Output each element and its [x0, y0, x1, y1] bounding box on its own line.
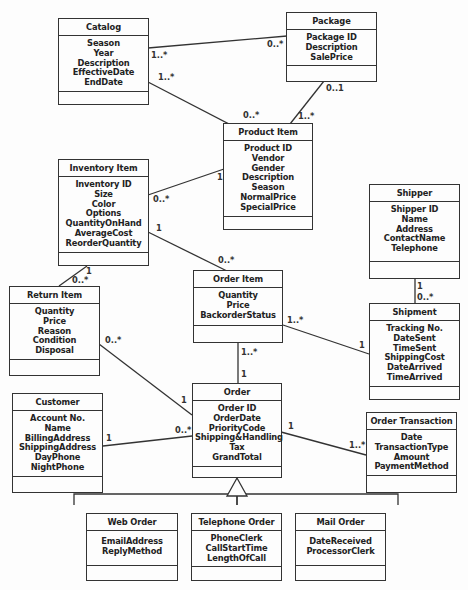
class-return-item: Return Item Quantity Price Reason Condit… — [9, 286, 100, 376]
class-name: Inventory Item — [59, 160, 148, 177]
class-attributes: PhoneClerk CallStartTime LengthOfCall — [192, 531, 281, 566]
attribute: Telephone — [372, 244, 457, 254]
multiplicity-label: 1..* — [298, 112, 314, 121]
multiplicity-label: 1..* — [158, 73, 174, 82]
class-order-transaction: Order Transaction Date TransactionType A… — [366, 412, 457, 493]
class-operations — [224, 216, 312, 233]
attribute: ReorderQuantity — [61, 239, 146, 249]
multiplicity-label: 1 — [359, 341, 365, 350]
class-name: Shipper — [370, 185, 459, 202]
attribute: ProcessorClerk — [298, 547, 383, 557]
class-attributes: Shipper ID Name Address ContactName Tele… — [370, 202, 459, 261]
attribute: PaymentMethod — [369, 462, 454, 472]
multiplicity-label: 0..* — [72, 276, 88, 285]
attribute: EndDate — [61, 78, 146, 88]
class-operations — [194, 325, 282, 342]
class-attributes: Season Year Description EffectiveDate En… — [59, 36, 148, 91]
multiplicity-label: 1..* — [151, 51, 167, 60]
attribute: TimeArrived — [372, 373, 457, 383]
attribute: SalePrice — [289, 53, 374, 63]
multiplicity-label: 1 — [241, 370, 247, 379]
class-attributes: Quantity Price BackorderStatus — [194, 288, 282, 325]
class-attributes: Order ID OrderDate PriorityCode Shipping… — [193, 401, 281, 466]
class-shipper: Shipper Shipper ID Name Address ContactN… — [369, 184, 460, 279]
attribute: ReplyMethod — [89, 547, 175, 557]
link-customer-order — [103, 436, 192, 446]
class-operations — [370, 386, 459, 403]
multiplicity-label: 0..* — [105, 336, 121, 345]
multiplicity-label: 1..* — [349, 441, 365, 450]
link-return-order — [99, 344, 192, 415]
class-name: Catalog — [59, 19, 148, 36]
class-shipment: Shipment Tracking No. DateSent TimeSent … — [369, 303, 460, 400]
class-attributes: DateReceived ProcessorClerk — [296, 531, 385, 565]
link-orderitem-shipment — [283, 325, 369, 354]
multiplicity-label: 1 — [106, 434, 112, 443]
attribute: SpecialPrice — [226, 203, 310, 213]
class-name: Product Item — [224, 124, 312, 141]
class-telephone-order: Telephone Order PhoneClerk CallStartTime… — [191, 513, 282, 581]
class-name: Order Item — [194, 271, 282, 288]
class-operations — [10, 359, 99, 376]
multiplicity-label: 0..1 — [326, 84, 344, 93]
class-operations — [13, 476, 102, 493]
class-operations — [287, 65, 376, 82]
class-name: Shipment — [370, 304, 459, 321]
multiplicity-label: 1 — [288, 422, 294, 431]
class-name: Customer — [13, 394, 102, 411]
class-name: Order — [193, 384, 281, 401]
attribute: NightPhone — [15, 463, 100, 473]
attribute: Disposal — [12, 346, 97, 356]
multiplicity-label: 0..* — [175, 426, 191, 435]
class-order-item: Order Item Quantity Price BackorderStatu… — [193, 270, 283, 343]
class-attributes: Quantity Price Reason Condition Disposal — [10, 304, 99, 359]
multiplicity-label: 1 — [417, 282, 423, 291]
class-operations — [296, 565, 385, 580]
class-name: Mail Order — [296, 514, 385, 531]
class-operations — [59, 91, 148, 108]
multiplicity-label: 1..* — [287, 316, 303, 325]
multiplicity-label: 0..* — [218, 256, 234, 265]
class-name: Web Order — [87, 514, 177, 531]
multiplicity-label: 1..* — [241, 348, 257, 357]
link-inventory-orderitem — [148, 232, 227, 271]
multiplicity-label: 0..* — [243, 111, 259, 120]
class-name: Return Item — [10, 287, 99, 304]
multiplicity-label: 1 — [217, 173, 223, 182]
class-name: Order Transaction — [367, 413, 456, 430]
class-product-item: Product Item Product ID Vendor Gender De… — [223, 123, 313, 230]
class-inventory-item: Inventory Item Inventory ID Size Color O… — [58, 159, 149, 266]
attribute: BackorderStatus — [196, 311, 280, 321]
attribute: GrandTotal — [195, 453, 279, 463]
class-attributes: Package ID Description SalePrice — [287, 30, 376, 65]
class-name: Package — [287, 13, 376, 30]
multiplicity-label: 0..* — [417, 293, 433, 302]
class-package: Package Package ID Description SalePrice — [286, 12, 377, 82]
class-attributes: Product ID Vendor Gender Description Sea… — [224, 141, 312, 216]
link-inventory-product — [148, 169, 224, 195]
class-attributes: Tracking No. DateSent TimeSent ShippingC… — [370, 321, 459, 386]
class-operations — [59, 252, 148, 269]
class-operations — [87, 565, 177, 580]
class-operations — [370, 261, 459, 278]
class-operations — [193, 466, 281, 483]
class-order: Order Order ID OrderDate PriorityCode Sh… — [192, 383, 282, 478]
multiplicity-label: 1 — [181, 396, 187, 405]
multiplicity-label: 1 — [156, 224, 162, 233]
attribute: LengthOfCall — [194, 554, 279, 564]
class-mail-order: Mail Order DateReceived ProcessorClerk — [295, 513, 386, 581]
multiplicity-label: 0..* — [153, 195, 169, 204]
class-attributes: Account No. Name BillingAddress Shipping… — [13, 411, 102, 476]
class-attributes: Inventory ID Size Color Options Quantity… — [59, 177, 148, 252]
class-attributes: EmailAddress ReplyMethod — [87, 531, 177, 565]
class-attributes: Date TransactionType Amount PaymentMetho… — [367, 430, 456, 475]
multiplicity-label: 0..* — [267, 40, 283, 49]
class-name: Telephone Order — [192, 514, 281, 531]
class-operations — [192, 566, 281, 581]
class-web-order: Web Order EmailAddress ReplyMethod — [86, 513, 178, 581]
class-customer: Customer Account No. Name BillingAddress… — [12, 393, 103, 493]
class-operations — [367, 475, 456, 492]
class-catalog: Catalog Season Year Description Effectiv… — [58, 18, 149, 105]
